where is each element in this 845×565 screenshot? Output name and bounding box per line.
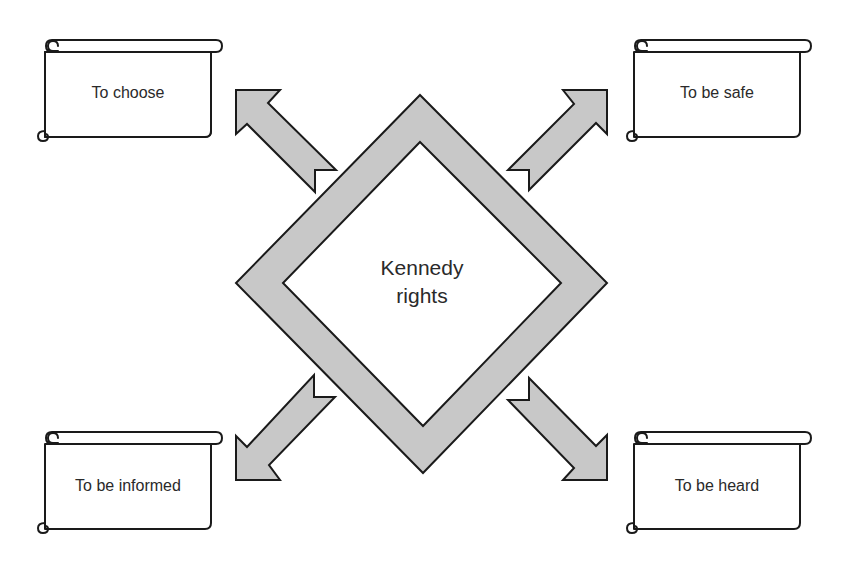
arrow-to-be-informed <box>236 375 335 480</box>
center-label: Kennedy rights <box>322 254 522 310</box>
right-label-to-be-heard: To be heard <box>634 476 800 496</box>
right-label-to-choose: To choose <box>45 83 211 103</box>
center-label-line1: Kennedy <box>322 254 522 282</box>
arrow-to-be-heard <box>508 378 607 480</box>
arrow-to-choose <box>236 90 336 192</box>
right-label-to-be-safe: To be safe <box>634 83 800 103</box>
center-label-line2: rights <box>322 282 522 310</box>
arrow-to-be-safe <box>508 90 607 190</box>
right-label-to-be-informed: To be informed <box>45 476 211 496</box>
